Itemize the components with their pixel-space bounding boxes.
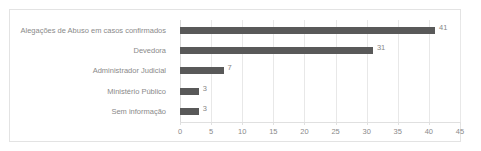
x-axis-tick-label: 35 [388, 126, 408, 137]
bar-row: 31 [180, 40, 460, 60]
x-axis-tick-label: 45 [450, 126, 470, 137]
bar-value-label: 3 [203, 103, 207, 114]
x-axis-tick-mark [367, 122, 368, 125]
bar-value-label: 3 [203, 83, 207, 94]
x-axis-tick-mark [429, 122, 430, 125]
x-axis-tick-label: 25 [326, 126, 346, 137]
x-axis-tick-mark [273, 122, 274, 125]
bar-row: 3 [180, 102, 460, 122]
x-axis-tick-mark [336, 122, 337, 125]
x-axis-tick-label: 30 [357, 126, 377, 137]
bar[interactable] [180, 67, 224, 74]
category-label: Sem informação [2, 106, 170, 117]
x-axis-tick-mark [242, 122, 243, 125]
bar[interactable] [180, 108, 199, 115]
x-axis-tick-mark [460, 122, 461, 125]
bar-row: 3 [180, 81, 460, 101]
x-axis-tick-mark [180, 122, 181, 125]
category-label: Ministério Público [2, 86, 170, 97]
x-axis-tick-label: 10 [232, 126, 252, 137]
plot-area: 4131733 [180, 20, 460, 122]
bar[interactable] [180, 88, 199, 95]
x-axis-tick-label: 20 [294, 126, 314, 137]
chart-frame: 4131733 051015202530354045Alegações de A… [9, 9, 461, 142]
bar[interactable] [180, 47, 373, 54]
x-axis-tick-label: 5 [201, 126, 221, 137]
bar-row: 7 [180, 61, 460, 81]
bar-value-label: 41 [439, 22, 447, 33]
x-axis-line [180, 122, 460, 123]
bar-value-label: 31 [377, 42, 385, 53]
x-axis-tick-label: 15 [263, 126, 283, 137]
bar-row: 41 [180, 20, 460, 40]
x-axis-tick-mark [211, 122, 212, 125]
x-axis-tick-label: 0 [170, 126, 190, 137]
x-axis-tick-label: 40 [419, 126, 439, 137]
bar-value-label: 7 [228, 62, 232, 73]
category-label: Devedora [2, 45, 170, 56]
chart-plot-wrapper: 4131733 051015202530354045Alegações de A… [10, 10, 462, 143]
x-axis-tick-mark [398, 122, 399, 125]
x-axis-tick-mark [304, 122, 305, 125]
bar[interactable] [180, 27, 435, 34]
gridline [460, 20, 461, 122]
category-label: Alegações de Abuso em casos confirmados [2, 25, 170, 36]
category-label: Administrador Judicial [2, 65, 170, 76]
